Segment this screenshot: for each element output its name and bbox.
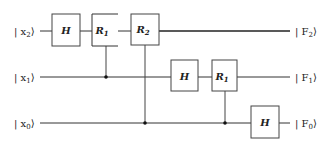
input-label-x2: | x2⟩ bbox=[14, 26, 35, 39]
svg-text:H: H bbox=[179, 71, 190, 82]
control-dot-r1-top bbox=[104, 75, 108, 79]
output-label-f2: | F2⟩ bbox=[295, 26, 317, 39]
input-label-x1: | x1⟩ bbox=[14, 72, 35, 85]
input-label-x0: | x0⟩ bbox=[14, 118, 35, 131]
control-dot-r1-mid bbox=[223, 121, 227, 125]
svg-text:H: H bbox=[60, 25, 71, 36]
output-label-f0: | F0⟩ bbox=[295, 118, 317, 131]
quantum-circuit-diagram: | x2⟩ | x1⟩ | x0⟩ H R1 R2 bbox=[0, 0, 329, 147]
gate-h-x1: H bbox=[171, 60, 198, 91]
gate-r1-x2: R1 bbox=[92, 14, 118, 46]
gate-h-x0: H bbox=[251, 106, 279, 138]
gate-h-x2: H bbox=[52, 14, 80, 46]
gate-r2-x2: R2 bbox=[131, 14, 159, 45]
gate-r1-x1: R1 bbox=[212, 60, 237, 91]
output-label-f1: | F1⟩ bbox=[295, 72, 317, 85]
svg-text:H: H bbox=[259, 117, 270, 128]
control-dot-r2 bbox=[143, 121, 147, 125]
